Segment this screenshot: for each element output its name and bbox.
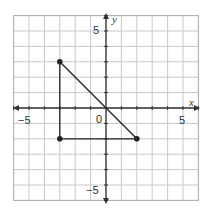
- y-axis-label: y: [111, 13, 117, 25]
- x-tick-label-5: 5: [179, 114, 185, 126]
- vertex-point: [134, 136, 140, 142]
- y-tick-label-5: 5: [93, 24, 99, 36]
- x-tick-label-neg5: −5: [18, 114, 31, 126]
- origin-label: 0: [96, 113, 102, 125]
- vertex-point: [57, 59, 63, 65]
- y-tick-label-neg5: −5: [86, 184, 99, 196]
- y-axis-arrow-down-icon: [103, 198, 109, 204]
- x-axis-arrow-right-icon: [194, 105, 200, 111]
- x-axis-label: x: [188, 96, 194, 108]
- vertex-point: [57, 136, 63, 142]
- triangle: [60, 62, 137, 139]
- coordinate-plane: y x 0 −5 5 5 −5: [0, 0, 209, 221]
- triangle-side: [60, 62, 137, 139]
